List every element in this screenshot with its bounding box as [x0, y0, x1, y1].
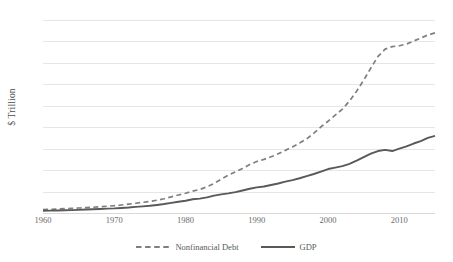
x-tick-label: 2000	[320, 215, 337, 225]
y-axis-title-label: $ Trillion	[7, 88, 17, 126]
x-tick-label: 1960	[35, 215, 52, 225]
legend-swatch-solid	[261, 243, 295, 251]
x-axis-baseline	[43, 213, 435, 214]
chart-legend: Nonfinancial DebtGDP	[0, 238, 453, 256]
x-tick-label: 2010	[391, 215, 408, 225]
legend-label: GDP	[300, 242, 317, 252]
legend-item-nonfinancial-debt[interactable]: Nonfinancial Debt	[136, 242, 238, 252]
chart-container: $ Trillion 051015202530354045 1960197019…	[0, 0, 453, 262]
plot-area	[43, 20, 435, 213]
legend-swatch-dashed	[136, 243, 170, 251]
series-line-gdp	[43, 136, 435, 211]
x-tick-label: 1970	[106, 215, 123, 225]
series-line-nonfinancial-debt	[43, 33, 435, 210]
legend-label: Nonfinancial Debt	[175, 242, 238, 252]
x-tick-label: 1990	[248, 215, 265, 225]
series-lines	[43, 20, 435, 213]
y-axis-title: $ Trillion	[0, 0, 24, 213]
x-axis-tick-labels: 196019701980199020002010	[43, 215, 435, 229]
legend-item-gdp[interactable]: GDP	[261, 242, 317, 252]
x-tick-label: 1980	[177, 215, 194, 225]
